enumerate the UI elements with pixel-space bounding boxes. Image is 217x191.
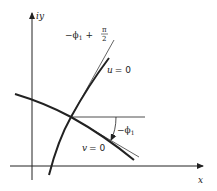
x-axis-label: x [198, 175, 203, 185]
u-zero-label: u= 0 [107, 65, 131, 75]
u-tangent-line [71, 40, 114, 117]
svg-text:−ϕ1+: −ϕ1+ [65, 30, 93, 41]
v-zero-label: v= 0 [82, 143, 105, 153]
conformal-mapping-diagram: iy x −ϕ1+ π 2 u= 0 −ϕ1 v= 0 [0, 0, 217, 191]
lower-angle-label: −ϕ1 [117, 125, 135, 136]
angle-arc [111, 117, 116, 140]
svg-text:2: 2 [102, 35, 106, 43]
svg-text:π: π [102, 26, 107, 34]
y-axis-label: iy [36, 11, 45, 21]
upper-angle-label: −ϕ1+ π 2 [65, 26, 108, 43]
u-zero-curve [49, 58, 109, 175]
